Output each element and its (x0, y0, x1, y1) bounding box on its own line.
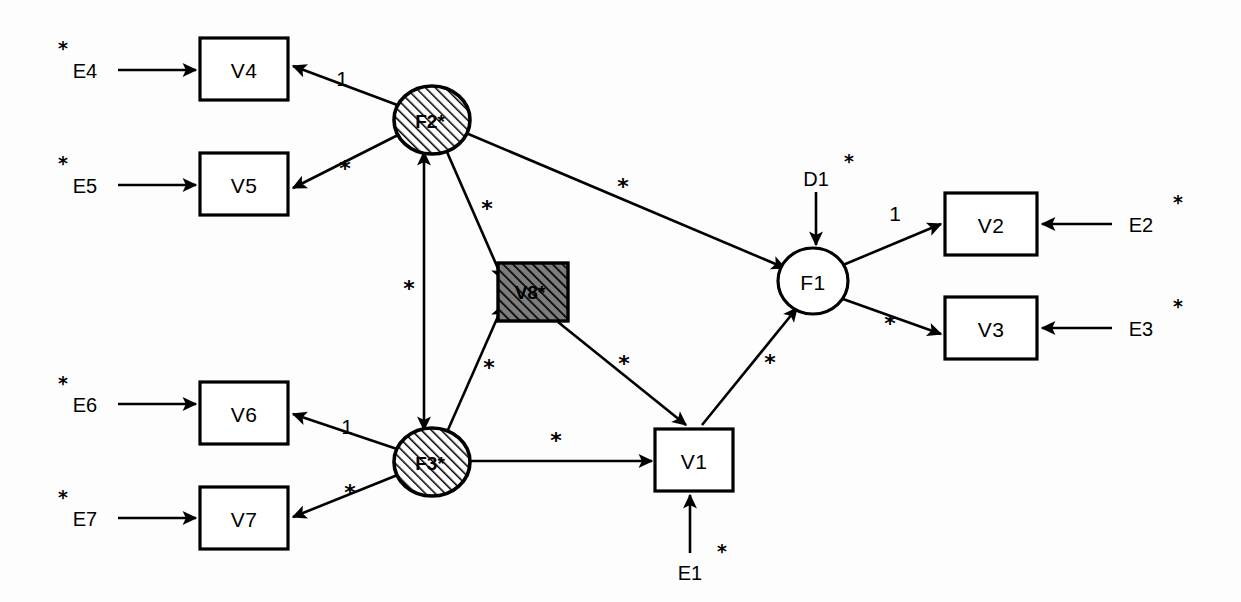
label-f1-v2: 1 (889, 202, 901, 225)
node-v8[interactable]: V8* (498, 263, 568, 321)
residual-e2: E2 * (1129, 191, 1183, 236)
residual-e3: E3 * (1129, 295, 1183, 340)
path-f2-f1 (466, 133, 785, 268)
residual-e5: E5 * (58, 152, 97, 197)
label-f2-v4: 1 (336, 67, 348, 90)
residual-e4-label: E4 (73, 60, 97, 82)
node-f2[interactable]: F2* (394, 86, 470, 154)
node-v8-label: V8* (515, 282, 546, 303)
label-f3-v1: * (550, 428, 562, 453)
label-f3-v7: * (344, 480, 356, 505)
residual-e4-star: * (58, 37, 68, 59)
diagram-canvas: V4 V5 V6 V7 V1 V2 (0, 0, 1241, 602)
node-v6-label: V6 (231, 403, 258, 426)
node-v7[interactable]: V7 (200, 487, 288, 549)
node-v6[interactable]: V6 (200, 382, 288, 444)
node-v5-label: V5 (231, 174, 258, 197)
residual-e7: E7 * (58, 486, 97, 530)
node-v4-label: V4 (231, 59, 258, 82)
node-v4[interactable]: V4 (200, 38, 288, 100)
residual-e1-label: E1 (678, 562, 702, 584)
residual-e2-star: * (1173, 191, 1183, 213)
residual-e5-star: * (58, 152, 68, 174)
node-v1-label: V1 (681, 450, 708, 473)
residual-e7-label: E7 (73, 508, 97, 530)
path-v1-f1 (702, 308, 797, 425)
label-v1-f1: * (764, 350, 776, 375)
path-f1-v2 (843, 224, 941, 265)
disturbance-d1-label: D1 (803, 168, 829, 190)
residual-e1: E1 * (678, 540, 727, 584)
label-f2-f1: * (617, 174, 629, 199)
node-v2[interactable]: V2 (945, 193, 1037, 255)
label-f2-v8: * (481, 196, 493, 221)
node-v3-label: V3 (978, 318, 1005, 341)
node-f3[interactable]: F3* (394, 428, 470, 496)
residual-e3-star: * (1173, 295, 1183, 317)
label-f3-v6: 1 (341, 415, 353, 438)
residual-e7-star: * (58, 486, 68, 508)
path-f2-v8 (447, 152, 503, 280)
residual-e3-label: E3 (1129, 318, 1153, 340)
node-v2-label: V2 (978, 214, 1005, 237)
residual-e6-star: * (58, 372, 68, 394)
node-v5[interactable]: V5 (200, 153, 288, 215)
label-f3-v8: * (483, 355, 495, 380)
node-f3-label: F3* (415, 453, 445, 474)
label-f1-v3: * (884, 311, 896, 336)
residual-e6: E6 * (58, 372, 97, 416)
disturbance-d1: D1 * (803, 150, 854, 190)
node-v7-label: V7 (231, 508, 258, 531)
disturbance-d1-star: * (844, 150, 854, 172)
sem-path-diagram: V4 V5 V6 V7 V1 V2 (0, 0, 1241, 602)
node-f1-label: F1 (800, 271, 826, 294)
node-f1[interactable]: F1 (778, 248, 848, 314)
label-f2-v5: * (339, 156, 351, 181)
node-v3[interactable]: V3 (945, 297, 1037, 359)
observed-variable-nodes: V4 V5 V6 V7 V1 V2 (200, 38, 1037, 549)
residual-e5-label: E5 (73, 175, 97, 197)
residual-e4: E4 * (58, 37, 97, 82)
residual-e1-star: * (717, 540, 727, 562)
node-f2-label: F2* (415, 111, 445, 132)
label-v8-v1: * (618, 351, 630, 376)
latent-factor-nodes: F2* F3* F1 (394, 86, 848, 496)
label-f2-f3: * (403, 276, 415, 301)
node-v1[interactable]: V1 (655, 429, 733, 491)
residual-e2-label: E2 (1129, 214, 1153, 236)
residual-e6-label: E6 (73, 394, 97, 416)
